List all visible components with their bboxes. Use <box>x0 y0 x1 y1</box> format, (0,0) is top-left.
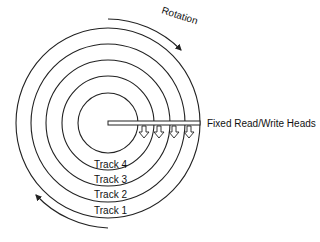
head-arrow-icon <box>184 126 194 138</box>
rotation-arrow-top <box>108 19 181 50</box>
track-label: Track 1 <box>94 205 127 216</box>
heads-label: Fixed Read/Write Heads <box>207 118 316 129</box>
rotation-label: Rotation <box>160 4 199 26</box>
head-arrow-icon <box>154 126 164 138</box>
track-label: Track 2 <box>94 189 127 200</box>
disk-diagram: Fixed Read/Write Heads Rotation Track 4 … <box>0 0 320 242</box>
head-arrow-icon <box>169 126 179 138</box>
head-arm <box>108 121 200 125</box>
track-label: Track 4 <box>94 159 127 170</box>
head-arrow-icon <box>139 126 149 138</box>
track-label: Track 3 <box>94 174 127 185</box>
